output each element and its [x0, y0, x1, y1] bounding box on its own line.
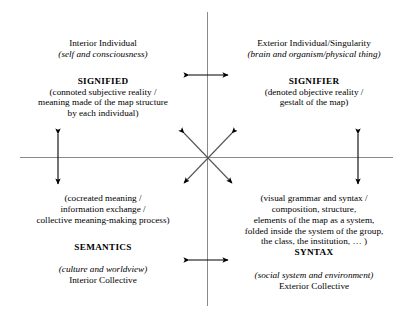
spacer — [218, 258, 410, 270]
quadrant-bottom-right-description-line-3: elements of the map as a system, — [218, 215, 410, 226]
quadrant-bottom-left-description-line-2: information exchange / — [8, 204, 198, 215]
spacer — [218, 60, 410, 76]
spacer — [8, 252, 198, 264]
quadrant-bottom-left-term: SEMANTICS — [8, 242, 198, 253]
quadrant-top-right-perspective-name: Exterior Individual/Singularity — [218, 38, 410, 49]
quadrant-top-right-perspective-gloss: (brain and organism/physical thing) — [218, 49, 410, 60]
vertical-axis-line — [207, 12, 208, 306]
quadrant-top-right: Exterior Individual/Singularity (brain a… — [218, 38, 410, 108]
quadrant-bottom-right: (visual grammar and syntax / composition… — [218, 193, 410, 292]
quadrant-top-right-description-line-1: (denoted objective reality / — [218, 87, 410, 98]
quadrant-bottom-right-description-line-1: (visual grammar and syntax / — [218, 193, 410, 204]
quadrant-top-left-description-line-3: by each individual) — [8, 108, 198, 119]
quadrant-bottom-right-term: SYNTAX — [218, 247, 410, 258]
quadrant-top-right-term: SIGNIFIER — [218, 76, 410, 87]
quadrant-bottom-left: (cocreated meaning / information exchang… — [8, 193, 198, 286]
quadrant-top-left-perspective-gloss: (self and consciousness) — [8, 49, 198, 60]
quadrant-bottom-right-perspective-gloss: (social system and environment) — [218, 270, 410, 281]
quadrant-bottom-right-description-line-2: composition, structure, — [218, 204, 410, 215]
quadrant-top-left-description-line-1: (connoted subjective reality / — [8, 87, 198, 98]
spacer — [8, 226, 198, 242]
quadrant-top-left-perspective-name: Interior Individual — [8, 38, 198, 49]
quadrant-bottom-right-perspective-name: Exterior Collective — [218, 281, 410, 292]
quadrant-bottom-right-description-line-4: folded inside the system of the group, — [218, 226, 410, 237]
spacer — [8, 60, 198, 76]
horizontal-axis-line — [20, 157, 393, 158]
quadrant-bottom-left-perspective-name: Interior Collective — [8, 275, 198, 286]
quadrant-bottom-left-description-line-3: collective meaning-making process) — [8, 215, 198, 226]
quadrant-bottom-right-description-line-5: the class, the institution, … ) — [218, 236, 410, 247]
quadrant-top-left-term: SIGNIFIED — [8, 76, 198, 87]
quadrant-bottom-left-perspective-gloss: (culture and worldview) — [8, 264, 198, 275]
center-diagonal-double-arrow-ne-sw — [184, 133, 232, 183]
diagram-canvas: Interior Individual (self and consciousn… — [0, 0, 417, 320]
quadrant-bottom-left-description-line-1: (cocreated meaning / — [8, 193, 198, 204]
center-diagonal-double-arrow-nw-se — [184, 133, 232, 183]
quadrant-top-left: Interior Individual (self and consciousn… — [8, 38, 198, 119]
quadrant-top-left-description-line-2: meaning made of the map structure — [8, 97, 198, 108]
quadrant-top-right-description-line-2: gestalt of the map) — [218, 97, 410, 108]
